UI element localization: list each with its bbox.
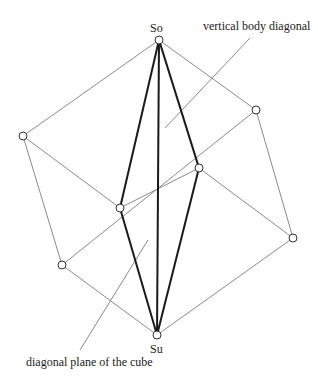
edge-left-midleft	[23, 136, 120, 208]
edge-so-topright	[159, 40, 256, 110]
vertex-bottomright	[289, 234, 297, 242]
vertex-left	[19, 132, 27, 140]
edge-left-bottomleft	[23, 136, 62, 265]
vertex-su	[153, 331, 161, 339]
label-vertical-body-diagonal: vertical body diagonal	[203, 19, 310, 34]
cube-diagram	[0, 0, 318, 381]
vertex-midright	[195, 164, 203, 172]
label-so: So	[150, 21, 163, 36]
edge-midleft-midright	[120, 168, 199, 208]
vertex-so	[155, 36, 163, 44]
edge-midright-bottomright	[199, 168, 293, 238]
label-diagonal-plane: diagonal plane of the cube	[26, 355, 153, 370]
edge-so-midright	[159, 40, 199, 168]
edge-so-midleft	[120, 40, 159, 208]
leader-vertical-diagonal	[165, 38, 250, 128]
edge-so-left	[23, 40, 159, 136]
vertex-midleft	[116, 204, 124, 212]
edge-topright-bottomright	[256, 110, 293, 238]
leader-diagonal-plane	[80, 240, 148, 350]
vertex-bottomleft	[58, 261, 66, 269]
edge-bottomleft-su	[62, 265, 157, 335]
vertex-topright	[252, 106, 260, 114]
edge-midleft-su	[120, 208, 157, 335]
vertical-body-diagonal	[157, 40, 159, 335]
